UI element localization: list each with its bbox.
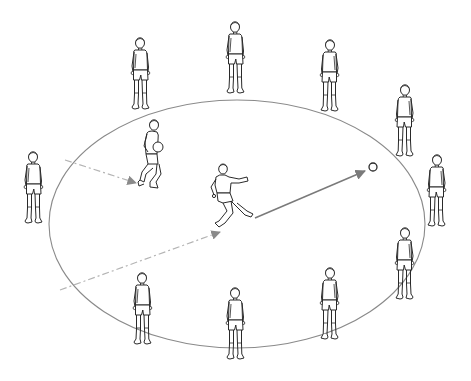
outer-player-top-right [320,40,339,111]
outer-player-right [427,155,446,226]
dashed-run-arrow-upper [65,160,136,183]
pass-arrow [255,171,365,218]
outer-player-bottom-right [320,268,339,339]
ball-icon [369,163,377,171]
outer-player-top-left [131,38,150,109]
drill-diagram [0,0,471,381]
inner-player-ball-carrier [138,120,163,188]
outer-player-right-lower [395,228,414,299]
inner-player-kicker [211,164,253,227]
outer-player-left [24,152,43,223]
outer-player-bottom-left [133,273,152,344]
outer-player-top-center [226,22,245,93]
outer-player-right-upper [395,85,414,156]
